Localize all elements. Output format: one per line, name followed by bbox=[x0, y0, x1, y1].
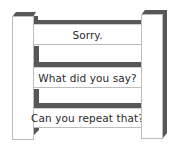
rung-3-label: Can you repeat that? bbox=[31, 112, 144, 124]
right-post-face bbox=[141, 14, 163, 139]
rung-2-label: What did you say? bbox=[38, 72, 137, 84]
recess-2-back bbox=[39, 89, 141, 104]
rung-1-face: Sorry. bbox=[34, 24, 141, 45]
ladder-diagram: Sorry. What did you say? Can you repeat … bbox=[0, 0, 176, 151]
rung-3-bottom-shadow bbox=[34, 128, 39, 135]
rung-1-label: Sorry. bbox=[72, 29, 102, 41]
rung-3-face: Can you repeat that? bbox=[34, 108, 141, 128]
rung-2-face: What did you say? bbox=[34, 67, 141, 88]
recess-1-back bbox=[39, 46, 141, 63]
